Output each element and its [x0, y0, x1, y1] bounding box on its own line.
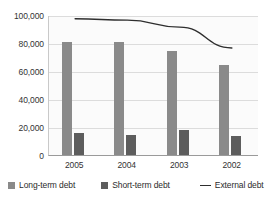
legend-swatch-icon: [8, 182, 15, 189]
external-debt-line: [75, 19, 232, 48]
legend-line-icon: [200, 185, 211, 186]
x-axis-tick-label: 2005: [48, 159, 101, 173]
legend-item[interactable]: Short-term debt: [101, 180, 170, 190]
legend-item-label: External debt: [215, 180, 264, 190]
y-axis-tick-label: 80,000: [0, 40, 44, 49]
x-axis-tick-label: 2002: [206, 159, 259, 173]
y-axis-tick-label: 100,000: [0, 12, 44, 21]
legend-item-label: Long-term debt: [19, 180, 75, 190]
legend-item[interactable]: External debt: [200, 180, 264, 190]
legend-item-label: Short-term debt: [112, 180, 170, 190]
y-axis-tick-label: 0: [0, 152, 44, 161]
plot-area: [48, 16, 258, 156]
external-debt-line-layer: [49, 16, 258, 155]
debt-composition-chart: 020,00040,00060,00080,000100,000 2005200…: [0, 0, 273, 204]
legend-item[interactable]: Long-term debt: [8, 180, 75, 190]
y-axis-labels: 020,00040,00060,00080,000100,000: [0, 16, 44, 156]
y-axis-tick-label: 20,000: [0, 124, 44, 133]
x-axis-labels: 2005200420032002: [48, 159, 258, 173]
y-axis-tick-label: 60,000: [0, 68, 44, 77]
x-axis-tick-label: 2004: [101, 159, 154, 173]
legend-swatch-icon: [101, 182, 108, 189]
chart-legend: Long-term debtShort-term debtExternal de…: [6, 178, 268, 192]
x-axis-tick-label: 2003: [153, 159, 206, 173]
y-axis-tick-label: 40,000: [0, 96, 44, 105]
